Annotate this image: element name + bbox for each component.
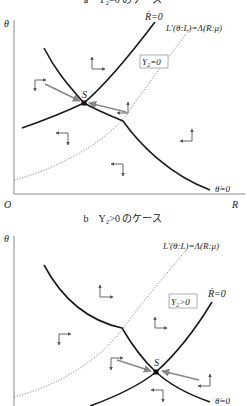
phase-diagrams: a Y₂=0 のケース θ O R Ṙ=0 L′(θ:L)=Λ(R:μ) Y₂=… <box>0 0 247 406</box>
panel-b-l-curve-label: L′(θ:L)=Λ(R:μ) <box>162 241 219 251</box>
panel-b-y-axis-label: θ <box>4 233 9 244</box>
panel-a-saddle-point <box>82 101 87 106</box>
panel-a-theta-dot-label: θ̇=0 <box>215 184 230 194</box>
panel-a-origin-label: O <box>4 199 11 210</box>
panel-a-stable-arm-right <box>89 103 126 112</box>
panel-b-saddle-point <box>154 370 159 375</box>
panel-b-theta-dot-zero-curve <box>44 265 210 402</box>
panel-a-l-prime-curve <box>14 28 190 180</box>
panel-b-region-label: Y₂>0 <box>171 297 190 307</box>
panel-b-theta-dot-label: θ̇=0 <box>215 396 230 406</box>
panel-b: b Y₂>0 のケース θ L′(θ:L)=Λ(R:μ) Ṙ=0 Y₂>0 θ̇… <box>4 213 230 406</box>
panel-a-saddle-label: S <box>82 89 87 100</box>
panel-b-title: b Y₂>0 のケース <box>84 213 163 224</box>
panel-a: a Y₂=0 のケース θ O R Ṙ=0 L′(θ:L)=Λ(R:μ) Y₂=… <box>4 0 245 210</box>
panel-b-r-dot-label: Ṙ=0 <box>207 288 226 299</box>
panel-a-y-axis-label: θ <box>4 18 9 29</box>
panel-a-x-axis-label: R <box>231 199 238 210</box>
panel-b-saddle-label: S <box>154 357 159 368</box>
panel-a-r-dot-label: Ṙ=0 <box>144 11 163 22</box>
panel-a-title: a Y₂=0 のケース <box>84 0 162 5</box>
panel-a-theta-dot-zero-curve <box>22 103 210 190</box>
panel-b-stable-arm-right <box>162 371 199 380</box>
panel-a-region-label: Y₂=0 <box>142 57 161 67</box>
panel-a-l-curve-label: L′(θ:L)=Λ(R:μ) <box>165 23 222 33</box>
